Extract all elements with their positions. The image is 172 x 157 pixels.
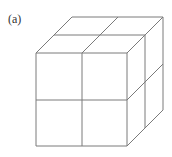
right-face xyxy=(127,17,163,146)
top-face xyxy=(36,17,163,53)
cube-diagram xyxy=(0,0,172,157)
front-face xyxy=(36,53,127,146)
